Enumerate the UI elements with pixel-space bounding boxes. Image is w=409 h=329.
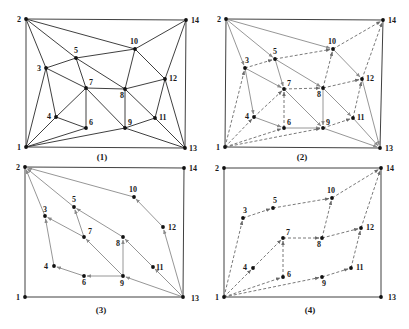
node-8 (321, 86, 325, 90)
node-3 (44, 66, 48, 70)
edge-2-14 (226, 19, 383, 20)
arrow-edge-9-13 (323, 128, 377, 147)
node-label-12: 12 (366, 223, 374, 232)
node-2 (222, 166, 226, 170)
node-label-5: 5 (273, 47, 277, 56)
node-1 (222, 295, 226, 299)
panel-caption: (1) (97, 152, 108, 162)
dashed-edge-4-7 (253, 240, 281, 268)
node-7 (281, 236, 285, 240)
node-13 (378, 146, 382, 150)
node-1 (24, 145, 28, 149)
node-11 (351, 116, 355, 120)
node-label-14: 14 (191, 16, 199, 25)
arrow-edge-11-8 (125, 239, 153, 267)
node-label-4: 4 (243, 263, 247, 272)
node-label-10: 10 (327, 186, 335, 195)
node-12 (163, 77, 167, 81)
node-7 (82, 235, 86, 239)
panel-1-triangulation: 1234567891011121314(1) (17, 15, 199, 162)
edge-3-5 (46, 58, 76, 68)
arrow-edge-2-10 (226, 19, 330, 48)
node-label-7: 7 (286, 228, 290, 237)
node-label-11: 11 (156, 263, 164, 272)
panel-3-solid-paths: 1234567891011121314(3) (16, 163, 199, 315)
arrow-edge-4-6 (254, 117, 281, 127)
node-10 (330, 196, 334, 200)
arrow-edge-11-13 (353, 118, 378, 146)
node-5 (74, 56, 78, 60)
node-8 (121, 235, 125, 239)
node-2 (224, 17, 228, 21)
node-label-6: 6 (287, 118, 291, 127)
node-label-1: 1 (215, 293, 219, 302)
node-1 (23, 295, 27, 299)
arrow-edge-12-13 (362, 79, 379, 145)
node-label-9: 9 (326, 118, 330, 127)
node-9 (121, 274, 125, 278)
arrow-edge-6-4 (57, 267, 84, 276)
edge-12-14 (165, 20, 186, 79)
node-label-13: 13 (388, 293, 396, 302)
node-label-3: 3 (43, 205, 47, 214)
node-label-3: 3 (243, 206, 247, 215)
dashed-edge-1-4 (224, 270, 251, 297)
edge-13-1 (225, 147, 380, 148)
node-label-12: 12 (366, 74, 374, 83)
node-10 (331, 47, 335, 51)
node-label-10: 10 (129, 185, 137, 194)
node-label-14: 14 (388, 16, 396, 25)
panel-caption: (3) (96, 305, 107, 315)
graph-figure: 1234567891011121314(1) 12345678910111213… (0, 0, 409, 329)
panel-4-dashed-paths: 1234567891011121314(4) (215, 164, 396, 315)
node-4 (54, 115, 58, 119)
node-label-4: 4 (245, 112, 249, 121)
node-label-5: 5 (273, 196, 277, 205)
dashed-edge-1-6 (224, 278, 280, 297)
node-7 (282, 87, 286, 91)
node-label-14: 14 (189, 164, 197, 173)
node-6 (84, 126, 88, 130)
node-label-7: 7 (287, 79, 291, 88)
dashed-edge-3-5 (243, 209, 270, 218)
node-label-10: 10 (130, 37, 138, 46)
node-2 (24, 17, 28, 21)
node-4 (52, 264, 56, 268)
arrow-edge-8-11 (323, 88, 351, 116)
node-13 (181, 295, 185, 299)
node-5 (273, 57, 277, 61)
edge-4-6 (56, 117, 86, 128)
node-3 (43, 214, 47, 218)
node-label-14: 14 (386, 164, 394, 173)
node-label-4: 4 (47, 112, 51, 121)
dashed-edge-1-3 (224, 221, 242, 297)
node-4 (252, 115, 256, 119)
dashed-edge-3-5 (245, 60, 272, 68)
node-12 (360, 77, 364, 81)
node-label-6: 6 (89, 118, 93, 127)
node-label-13: 13 (191, 294, 199, 303)
edge-4-7 (56, 88, 86, 117)
edge-14-13 (380, 20, 383, 148)
edge-5-10 (76, 49, 135, 58)
node-label-11: 11 (357, 113, 365, 122)
node-12 (359, 226, 363, 230)
node-7 (84, 86, 88, 90)
dashed-edge-1-3 (225, 71, 244, 147)
dashed-edge-8-12 (323, 80, 359, 88)
node-14 (381, 18, 385, 22)
edge-8-11 (125, 89, 155, 118)
node-label-13: 13 (189, 144, 197, 153)
node-label-1: 1 (16, 293, 20, 302)
node-2 (23, 165, 27, 169)
dashed-edge-10-14 (332, 170, 378, 198)
node-label-8: 8 (120, 91, 124, 100)
edge-10-14 (135, 20, 186, 49)
edge-10-12 (135, 49, 165, 79)
node-label-7: 7 (88, 227, 92, 236)
arrow-edge-3-4 (245, 68, 253, 114)
node-label-2: 2 (217, 15, 221, 24)
dashed-edge-8-10 (322, 201, 331, 238)
node-label-2: 2 (215, 164, 219, 173)
edge-2-14 (26, 19, 186, 20)
